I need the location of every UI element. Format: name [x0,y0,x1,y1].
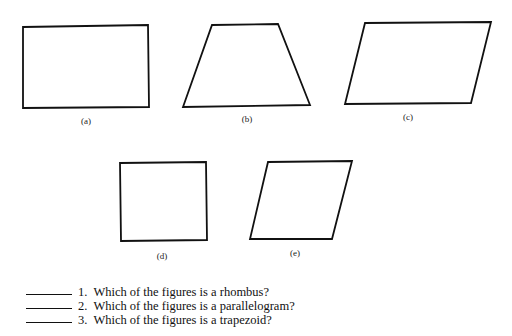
figure-d-square [120,162,207,241]
figure-b-label: (b) [242,114,253,124]
question-number: 3. [78,313,87,328]
question-text: Which of the figures is a rhombus? [93,285,269,300]
figure-b-trapezoid [183,24,310,107]
answer-blank-2[interactable] [26,308,72,309]
question-number: 1. [78,285,87,300]
figure-d-label: (d) [157,251,168,261]
question-2: 2. Which of the figures is a parallelogr… [26,299,295,314]
question-number: 2. [78,299,87,314]
question-1: 1. Which of the figures is a rhombus? [26,285,269,300]
question-text: Which of the figures is a parallelogram? [93,299,294,314]
figure-e-rhombus [250,161,352,239]
figure-e-label: (e) [290,248,300,258]
figure-a-label: (a) [81,116,91,126]
answer-blank-3[interactable] [26,322,72,323]
figure-c-label: (c) [403,112,413,122]
figure-a-rectangle [23,25,149,108]
answer-blank-1[interactable] [26,294,72,295]
question-text: Which of the figures is a trapezoid? [93,313,271,328]
figure-c-parallelogram [345,22,491,104]
question-3: 3. Which of the figures is a trapezoid? [26,313,272,328]
